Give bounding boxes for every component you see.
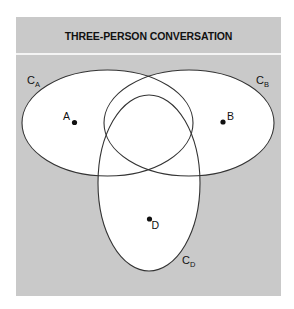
ellipse-fills [22, 70, 274, 271]
person-b-label: B [227, 110, 234, 122]
person-a-label: A [63, 110, 70, 122]
venn-diagram: CA CB CD A B D [0, 0, 294, 309]
person-d-label: D [152, 219, 160, 231]
person-a-dot [72, 120, 77, 125]
circle-ca-label: CA [27, 74, 40, 89]
person-d-dot [147, 216, 152, 221]
circle-cb-label: CB [256, 74, 269, 89]
circle-cd-label: CD [182, 254, 196, 269]
person-b-dot [220, 119, 225, 124]
